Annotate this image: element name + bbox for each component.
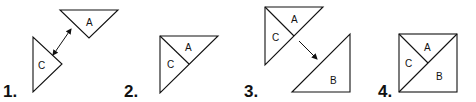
label-c: C: [272, 32, 279, 43]
step-number: 4.: [378, 82, 392, 101]
label-a: A: [424, 42, 431, 53]
step-number: 2.: [124, 82, 138, 101]
label-b: B: [436, 71, 443, 82]
label-a: A: [185, 42, 192, 53]
label-c: C: [167, 59, 174, 70]
step-number: 3.: [244, 82, 258, 101]
step-2: A C 2.: [124, 36, 218, 101]
label-a: A: [86, 17, 93, 28]
step-3: A C B 3.: [244, 7, 350, 101]
divider-line: [265, 7, 294, 36]
diagram-canvas: A C 1. A C 2. A C B 3. A C B 4.: [0, 0, 476, 102]
label-c: C: [38, 60, 45, 71]
step-1: A C 1.: [3, 10, 118, 101]
double-arrow-icon: [53, 29, 71, 55]
step-number: 1.: [3, 82, 17, 101]
label-b: B: [330, 75, 337, 86]
label-a: A: [291, 14, 298, 25]
arrow-icon: [299, 41, 317, 59]
step-4: A C B 4.: [378, 34, 457, 101]
diagram-svg: A C 1. A C 2. A C B 3. A C B 4.: [0, 0, 476, 102]
label-c: C: [405, 58, 412, 69]
